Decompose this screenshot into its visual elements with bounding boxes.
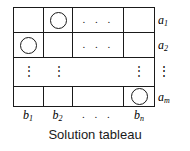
cell-r1-cdots: . . . <box>73 8 124 32</box>
cell-r1-c2 <box>44 8 73 32</box>
vertical-ellipsis: ⋮ <box>133 65 145 77</box>
horizontal-ellipsis: . . . <box>82 14 113 25</box>
cell-r2-cdots: . . . <box>73 33 124 57</box>
column-label-bn-sub: n <box>140 114 144 123</box>
cell-r2-c2 <box>44 33 73 57</box>
horizontal-ellipsis: . . . <box>82 39 113 50</box>
cell-r2-c1 <box>14 33 44 57</box>
vertical-ellipsis: ⋮ <box>53 65 65 77</box>
column-label-horizontal-ellipsis: . . . <box>72 109 123 121</box>
row-label-vertical-ellipsis: ⋮ <box>158 65 188 77</box>
cell-rm-c1 <box>14 87 44 106</box>
column-label-b2-base: b <box>53 108 59 122</box>
table-row: ⋮ ⋮ ⋮ <box>14 58 154 87</box>
cell-r2-cn <box>124 33 154 57</box>
vertical-ellipsis: ⋮ <box>23 65 35 77</box>
horizontal-ellipsis: . . . <box>82 109 113 120</box>
table-row: . . . <box>14 8 154 33</box>
figure-caption: Solution tableau <box>0 128 190 141</box>
column-labels: b1 b2 . . . bn <box>13 109 155 125</box>
table-row: . . . <box>14 33 154 58</box>
column-label-b1-sub: 1 <box>29 114 33 123</box>
row-label-a2: a2 <box>158 39 188 51</box>
solution-tableau-figure: . . . . . . ⋮ ⋮ ⋮ <box>0 0 190 151</box>
table-row <box>14 87 154 106</box>
row-label-a2-sub: 2 <box>164 44 168 53</box>
circle-marker <box>50 12 67 29</box>
cell-r3-cn: ⋮ <box>124 58 154 86</box>
circle-marker <box>131 88 148 105</box>
column-label-b1: b1 <box>13 109 43 121</box>
row-label-a1-sub: 1 <box>164 19 168 28</box>
row-label-am-sub: m <box>164 96 170 105</box>
circle-marker <box>20 37 37 54</box>
cell-rm-cn <box>124 87 154 106</box>
cell-rm-cdots <box>73 87 124 106</box>
cell-r3-c2: ⋮ <box>44 58 73 86</box>
column-label-bn: bn <box>123 109 155 121</box>
column-label-b2: b2 <box>43 109 72 121</box>
column-label-b2-sub: 2 <box>59 114 63 123</box>
cell-r1-cn <box>124 8 154 32</box>
cell-r3-c1: ⋮ <box>14 58 44 86</box>
cell-rm-c2 <box>44 87 73 106</box>
row-label-a1: a1 <box>158 14 188 26</box>
cell-r3-cdots <box>73 58 124 86</box>
tableau-grid: . . . . . . ⋮ ⋮ ⋮ <box>13 7 155 107</box>
cell-r1-c1 <box>14 8 44 32</box>
row-label-am: am <box>158 91 188 103</box>
row-labels: a1 a2 ⋮ am <box>158 7 188 107</box>
